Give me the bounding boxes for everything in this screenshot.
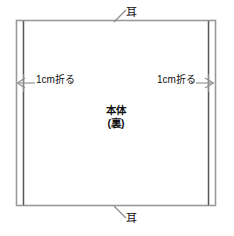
- leader-line-selvage-bottom: [114, 206, 126, 218]
- label-fold-left: 1cm折る: [36, 74, 75, 86]
- label-selvage-top: 耳: [126, 6, 137, 19]
- label-selvage-bottom: 耳: [126, 212, 137, 225]
- label-fold-right: 1cm折る: [157, 74, 196, 86]
- label-body-main: 本体: [92, 104, 140, 116]
- label-body-reverse-side: (裏): [92, 117, 140, 129]
- sewing-pattern-diagram: 耳 耳 1cm折る 1cm折る 本体 (裏): [0, 0, 234, 236]
